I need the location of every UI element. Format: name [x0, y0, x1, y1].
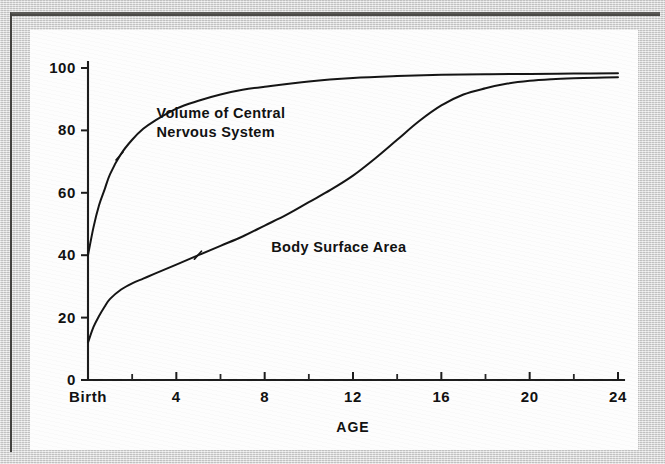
figure-root: 020406080100 Birth4812162024 Volume of C… — [0, 0, 665, 464]
x-tick-label: 20 — [521, 388, 539, 405]
curve-tick-markers — [116, 152, 201, 259]
x-tick-label: Birth — [69, 388, 107, 405]
y-tick-label: 40 — [58, 246, 76, 263]
cns-curve-label-line2: Nervous System — [156, 124, 275, 140]
curve-tick-mark — [116, 152, 123, 160]
x-tick-label: 4 — [172, 388, 181, 405]
chart-panel: 020406080100 Birth4812162024 Volume of C… — [30, 30, 638, 450]
x-axis-major-ticks — [88, 372, 618, 380]
x-tick-label: 16 — [432, 388, 450, 405]
y-tick-label: 0 — [67, 371, 76, 388]
x-tick-label: 12 — [344, 388, 362, 405]
cns-volume-curve — [88, 73, 618, 255]
growth-curves-plot: 020406080100 Birth4812162024 Volume of C… — [30, 30, 638, 450]
y-tick-label: 20 — [58, 309, 76, 326]
x-tick-label: 8 — [260, 388, 269, 405]
y-tick-label: 60 — [58, 184, 76, 201]
y-tick-label: 100 — [49, 59, 76, 76]
curve-annotations: Volume of Central Nervous System Body Su… — [156, 105, 407, 255]
x-axis-tick-labels: Birth4812162024 — [69, 388, 627, 405]
x-tick-label: 24 — [609, 388, 627, 405]
x-axis-title: AGE — [336, 419, 370, 435]
y-axis-tick-labels: 020406080100 — [49, 59, 76, 388]
bsa-curve-label: Body Surface Area — [271, 239, 407, 255]
y-axis-ticks — [81, 68, 88, 380]
y-tick-label: 80 — [58, 121, 76, 138]
cns-curve-label-line1: Volume of Central — [156, 105, 285, 121]
